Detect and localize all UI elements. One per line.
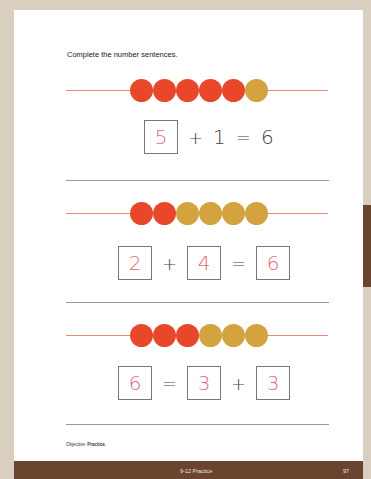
answer-box[interactable]: 3 xyxy=(187,366,221,400)
divider-3 xyxy=(66,424,329,425)
gold-bead xyxy=(245,324,268,347)
objective-label: Objective: xyxy=(66,442,86,447)
objective-text: Practice. xyxy=(87,442,106,447)
number-sentence-3: 6 = 3 + 3 xyxy=(118,366,290,400)
gold-bead xyxy=(199,202,222,225)
gold-bead xyxy=(245,79,268,102)
operator: = xyxy=(221,253,256,274)
instruction-text: Complete the number sentences. xyxy=(67,50,177,59)
gold-bead xyxy=(176,202,199,225)
page-edge-tab xyxy=(363,205,371,287)
answer-box[interactable]: 4 xyxy=(187,246,221,280)
red-bead xyxy=(130,324,153,347)
footer-bar: 9-12 Practice 97 xyxy=(14,461,363,479)
number-sentence-1: 5 + 1 = 6 xyxy=(144,120,274,154)
operator: = xyxy=(152,373,187,394)
red-bead xyxy=(153,79,176,102)
gold-bead xyxy=(245,202,268,225)
red-bead xyxy=(130,202,153,225)
bead-row-3 xyxy=(130,324,268,347)
answer-box[interactable]: 3 xyxy=(256,366,290,400)
red-bead xyxy=(176,324,199,347)
operator: = xyxy=(226,127,261,148)
bead-row-1 xyxy=(130,79,268,102)
answer-box[interactable]: 5 xyxy=(144,120,178,154)
number-sentence-2: 2 + 4 = 6 xyxy=(118,246,290,280)
section-label: 9-12 Practice xyxy=(180,468,212,474)
red-bead xyxy=(199,79,222,102)
operator: + xyxy=(178,127,213,148)
divider-2 xyxy=(66,302,329,303)
red-bead xyxy=(176,79,199,102)
gold-bead xyxy=(222,202,245,225)
red-bead xyxy=(130,79,153,102)
answer-box[interactable]: 6 xyxy=(256,246,290,280)
red-bead xyxy=(222,79,245,102)
bead-row-2 xyxy=(130,202,268,225)
red-bead xyxy=(153,324,176,347)
gold-bead xyxy=(222,324,245,347)
number: 6 xyxy=(261,125,274,149)
answer-box[interactable]: 2 xyxy=(118,246,152,280)
operator: + xyxy=(152,253,187,274)
answer-box[interactable]: 6 xyxy=(118,366,152,400)
page-number: 97 xyxy=(343,468,349,474)
divider-1 xyxy=(66,180,329,181)
operator: + xyxy=(221,373,256,394)
objective-note: Objective: Practice. xyxy=(66,442,106,447)
number: 1 xyxy=(213,125,226,149)
red-bead xyxy=(153,202,176,225)
gold-bead xyxy=(199,324,222,347)
